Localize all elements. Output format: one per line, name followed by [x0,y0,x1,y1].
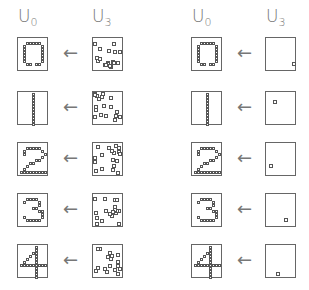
arrow-left-icon: ← [237,44,252,62]
arrow-left-icon: ← [63,149,78,167]
arrow-left-icon: ← [63,251,78,269]
digit-2-u0-box [191,142,222,176]
arrow-left-icon: ← [237,200,252,218]
digit-0-u0-box [191,37,222,71]
header-u0-left: U0 [18,6,37,29]
arrow-left-icon: ← [63,98,78,116]
digit-2-u0-box [17,142,48,176]
arrow-left-icon: ← [63,44,78,62]
digit-1-u0-box [17,91,48,125]
digit-3-u3-box [265,193,296,227]
arrow-left-icon: ← [237,149,252,167]
header-u3-left: U3 [92,6,111,29]
digit-0-u3-box [265,37,296,71]
arrow-left-icon: ← [63,200,78,218]
arrow-left-icon: ← [237,251,252,269]
digit-4-u3-box [92,244,123,278]
digit-4-u3-box [265,244,296,278]
digit-2-u3-box [265,142,296,176]
digit-3-u0-box [17,193,48,227]
digit-2-u3-box [92,142,123,176]
digit-0-u3-box [92,37,123,71]
digit-3-u3-box [92,193,123,227]
digit-4-u0-box [191,244,222,278]
header-u3-right: U3 [266,6,285,29]
digit-4-u0-box [17,244,48,278]
digit-1-u3-box [265,91,296,125]
digit-0-u0-box [17,37,48,71]
digit-1-u3-box [92,91,123,125]
digit-3-u0-box [191,193,222,227]
header-u0-right: U0 [192,6,211,29]
digit-1-u0-box [191,91,222,125]
arrow-left-icon: ← [237,98,252,116]
